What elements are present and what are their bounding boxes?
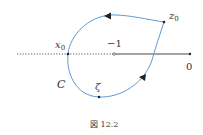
label-z0: z0 xyxy=(168,10,179,23)
point-z0 xyxy=(163,21,166,24)
contour-c xyxy=(68,15,164,97)
label-zero: 0 xyxy=(186,61,192,72)
label-x0: x0 xyxy=(55,39,65,52)
label-minus-one: −1 xyxy=(107,38,122,49)
contour-diagram: x0 −1 0 z0 ζ C 図 12.2 xyxy=(0,0,203,135)
arrow-top-icon xyxy=(104,13,111,20)
label-zeta: ζ xyxy=(95,81,101,92)
figure-caption: 図 12.2 xyxy=(90,120,118,129)
label-contour-c: C xyxy=(57,78,66,91)
point-zeta xyxy=(98,96,101,99)
point-x0 xyxy=(67,53,70,56)
point-zero xyxy=(189,53,191,55)
point-minus-one xyxy=(113,53,116,56)
